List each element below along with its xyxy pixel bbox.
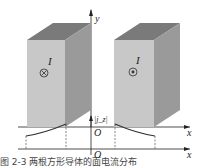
bottom-y-axis-label: |j_z| xyxy=(94,116,108,124)
right-conductor-block xyxy=(114,23,180,127)
left-conductor-block xyxy=(27,23,91,127)
top-y-axis-label: y xyxy=(95,14,99,24)
left-block-front-face xyxy=(27,40,65,127)
top-y-axis-arrow-icon xyxy=(89,9,93,16)
top-x-axis-label: x xyxy=(187,128,191,138)
left-block-side-face xyxy=(65,23,91,127)
top-origin-label: O xyxy=(94,128,101,138)
bottom-y-axis-arrow-icon xyxy=(89,115,93,121)
left-current-label: I xyxy=(48,56,52,67)
right-block-front-face xyxy=(114,40,154,127)
right-current-label: I xyxy=(136,55,140,66)
figure-caption: 图 2-3 两根方形导体的面电流分布 xyxy=(0,157,199,167)
right-block-side-face xyxy=(154,23,180,127)
current-density-curves xyxy=(26,124,155,149)
figure xyxy=(0,0,199,167)
